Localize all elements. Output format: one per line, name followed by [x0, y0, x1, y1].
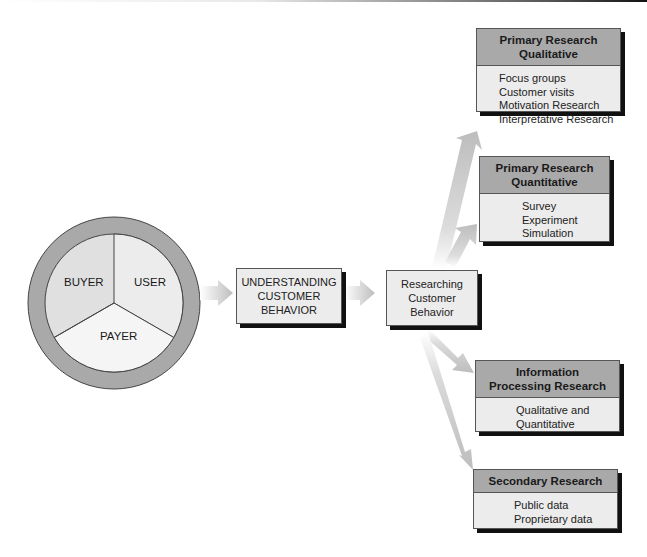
understanding-line-2: CUSTOMER [241, 289, 336, 303]
box-header: Primary Research Qualitative [477, 29, 620, 66]
list-item: Customer visits [499, 86, 616, 100]
header-line: Information [478, 365, 617, 379]
list-item: Focus groups [499, 72, 616, 86]
researching-line-2: Customer [401, 291, 463, 305]
segment-buyer-label: BUYER [64, 276, 104, 288]
header-line: Primary Research [479, 33, 618, 47]
arrow-to-understanding [200, 280, 233, 306]
information-processing-research-box: Information Processing Research Qualitat… [475, 360, 620, 432]
box-header: Secondary Research [474, 470, 617, 493]
list-item: Experiment [522, 214, 605, 228]
segment-user-label: USER [134, 276, 166, 288]
list-item: Motivation Research [499, 99, 616, 113]
box-body: Public data Proprietary data [474, 493, 617, 532]
box-header: Primary Research Quantitative [480, 157, 609, 194]
list-item: Public data [514, 499, 613, 513]
list-item: Interpretative Research [499, 113, 616, 127]
header-line: Processing Research [478, 379, 617, 393]
researching-customer-behavior-box: Researching Customer Behavior [386, 270, 478, 326]
understanding-line-1: UNDERSTANDING [241, 275, 336, 289]
segment-payer-label: PAYER [100, 330, 137, 342]
primary-research-quantitative-box: Primary Research Quantitative Survey Exp… [479, 156, 610, 242]
list-item: Qualitative and [516, 404, 615, 418]
understanding-customer-behavior-box: UNDERSTANDING CUSTOMER BEHAVIOR [236, 268, 342, 324]
box-header: Information Processing Research [476, 361, 619, 398]
list-item: Quantitative [516, 418, 615, 432]
header-line: Secondary Research [476, 474, 615, 488]
researching-line-3: Behavior [401, 305, 463, 319]
understanding-line-3: BEHAVIOR [241, 303, 336, 317]
researching-line-1: Researching [401, 277, 463, 291]
box-body: Qualitative and Quantitative [476, 398, 619, 437]
primary-research-qualitative-box: Primary Research Qualitative Focus group… [476, 28, 621, 112]
header-line: Quantitative [482, 175, 607, 189]
header-line: Qualitative [479, 47, 618, 61]
list-item: Proprietary data [514, 513, 613, 527]
secondary-research-box: Secondary Research Public data Proprieta… [473, 469, 618, 529]
header-line: Primary Research [482, 161, 607, 175]
list-item: Simulation [522, 227, 605, 241]
box-body: Survey Experiment Simulation [480, 194, 609, 247]
box-body: Focus groups Customer visits Motivation … [477, 66, 620, 132]
list-item: Survey [522, 200, 605, 214]
stakeholder-circle [28, 217, 200, 389]
arrow-to-researching [344, 280, 375, 306]
